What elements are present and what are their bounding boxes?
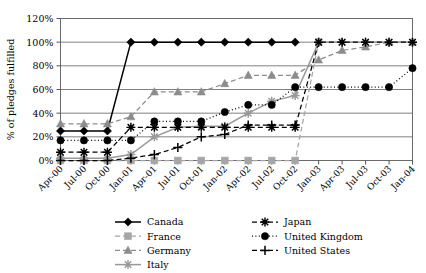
data-point-asterisk: [79, 148, 88, 157]
data-point-circle: [261, 233, 268, 240]
data-point-diamond: [103, 127, 111, 135]
x-tick-label: Jan-04: [388, 164, 417, 193]
data-point-circle: [198, 118, 205, 125]
legend-label: United Kingdom: [284, 231, 363, 242]
y-tick-label: 40%: [32, 108, 53, 119]
data-point-diamond: [221, 38, 229, 46]
x-tick-label: Oct-01: [177, 164, 206, 193]
data-point-circle: [339, 84, 346, 91]
data-point-asterisk: [150, 132, 159, 141]
data-point-circle: [151, 118, 158, 125]
x-tick-label: Apr-03: [317, 164, 347, 194]
data-point-plus: [260, 246, 269, 255]
data-series-markers: [56, 38, 417, 165]
legend-label: United States: [284, 245, 350, 256]
data-point-plus: [244, 120, 253, 129]
data-point-diamond: [80, 127, 88, 135]
x-axis-ticks: Apr-00Jul-00Oct-00Jan-01Apr-01Jul-01Oct-…: [35, 161, 417, 194]
legend-label: Japan: [283, 216, 311, 227]
data-point-asterisk: [361, 38, 370, 47]
y-tick-label: 20%: [32, 131, 53, 142]
data-point-asterisk: [408, 38, 417, 47]
data-point-square: [198, 157, 205, 164]
legend-label: Italy: [147, 259, 169, 270]
data-point-circle: [362, 84, 369, 91]
data-point-asterisk: [124, 260, 133, 269]
data-point-square: [221, 157, 228, 164]
data-point-plus: [291, 120, 300, 129]
data-point-asterisk: [291, 91, 300, 100]
y-tick-label: 120%: [26, 13, 53, 24]
chart-legend: CanadaFranceGermanyItalyJapanUnited King…: [115, 216, 363, 270]
y-axis-title: % of pledges fulfilled: [5, 39, 16, 141]
data-point-triangle: [244, 71, 252, 78]
legend-label: Germany: [147, 245, 192, 256]
data-point-triangle: [291, 71, 299, 78]
series-line-japan: [61, 42, 413, 152]
data-point-square: [292, 157, 299, 164]
data-point-circle: [221, 108, 228, 115]
data-point-plus: [197, 132, 206, 141]
data-point-diamond: [174, 38, 182, 46]
data-point-diamond: [124, 218, 132, 226]
x-tick-label: Oct-03: [365, 164, 394, 193]
legend-label: France: [147, 231, 181, 242]
data-point-circle: [385, 84, 392, 91]
data-point-diamond: [56, 127, 64, 135]
series-line-italy: [61, 42, 413, 158]
plot-gridlines: [61, 19, 413, 161]
data-point-plus: [220, 130, 229, 139]
x-tick-label: Apr-01: [129, 164, 159, 194]
y-tick-label: 0%: [38, 155, 53, 166]
data-point-diamond: [244, 38, 252, 46]
data-point-asterisk: [385, 38, 394, 47]
data-point-square: [125, 233, 132, 240]
data-point-asterisk: [338, 38, 347, 47]
y-axis-ticks: 0%20%40%60%80%100%120%: [26, 13, 60, 166]
data-point-square: [245, 157, 252, 164]
data-point-diamond: [268, 38, 276, 46]
data-point-circle: [57, 137, 64, 144]
data-point-circle: [80, 137, 87, 144]
line-chart: 0%20%40%60%80%100%120% % of pledges fulf…: [0, 0, 426, 273]
data-point-diamond: [150, 38, 158, 46]
data-point-circle: [174, 118, 181, 125]
data-point-square: [268, 157, 275, 164]
y-axis-label: % of pledges fulfilled: [5, 39, 16, 141]
data-point-circle: [409, 65, 416, 72]
data-point-square: [174, 157, 181, 164]
y-tick-label: 100%: [26, 37, 53, 48]
x-tick-label: Apr-00: [35, 164, 65, 194]
y-tick-label: 80%: [32, 60, 53, 71]
data-point-asterisk: [103, 148, 112, 157]
data-point-circle: [292, 84, 299, 91]
legend-label: Canada: [147, 216, 184, 227]
data-point-circle: [104, 137, 111, 144]
data-point-asterisk: [314, 38, 323, 47]
data-point-plus: [173, 143, 182, 152]
data-series-lines: [61, 42, 413, 160]
data-point-asterisk: [261, 218, 270, 227]
x-tick-label: Oct-02: [271, 164, 300, 193]
data-point-asterisk: [126, 123, 135, 132]
x-tick-label: Oct-00: [83, 164, 112, 193]
data-point-circle: [245, 101, 252, 108]
data-point-diamond: [127, 38, 135, 46]
y-tick-label: 60%: [32, 84, 53, 95]
data-point-asterisk: [56, 148, 65, 157]
data-point-plus: [267, 120, 276, 129]
data-point-diamond: [291, 38, 299, 46]
x-tick-label: Apr-02: [223, 164, 253, 194]
data-point-circle: [268, 101, 275, 108]
data-point-circle: [315, 84, 322, 91]
data-point-circle: [127, 137, 134, 144]
data-point-asterisk: [244, 109, 253, 118]
data-point-diamond: [197, 38, 205, 46]
chart-figure: 0%20%40%60%80%100%120% % of pledges fulf…: [0, 0, 426, 273]
